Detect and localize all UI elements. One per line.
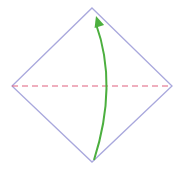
diagram-canvas — [0, 0, 183, 171]
paper-diamond — [12, 8, 172, 162]
origami-diagram — [0, 0, 183, 171]
